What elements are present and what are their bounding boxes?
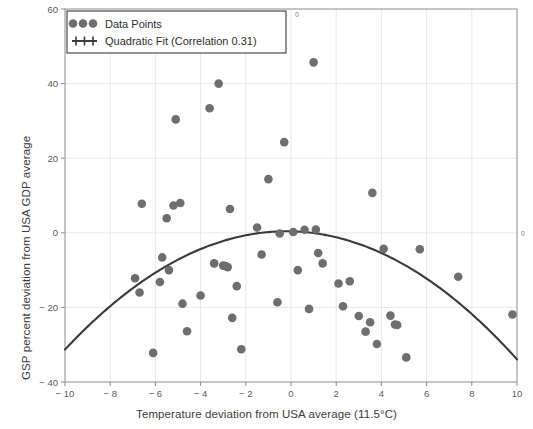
svg-text:40: 40 xyxy=(47,78,58,89)
svg-text:− 2: − 2 xyxy=(239,388,252,399)
svg-text:Data Points: Data Points xyxy=(105,18,162,30)
svg-text:0: 0 xyxy=(288,388,293,399)
scatter-plot: − 10− 8− 6− 4− 20246810− 40− 20020406000… xyxy=(0,0,533,429)
svg-text:− 4: − 4 xyxy=(194,388,207,399)
svg-text:0: 0 xyxy=(295,11,299,18)
svg-text:10: 10 xyxy=(512,388,523,399)
y-axis-label: GSP percent deviation from USA GDP avera… xyxy=(20,136,32,380)
svg-text:6: 6 xyxy=(424,388,429,399)
svg-text:0: 0 xyxy=(521,230,525,237)
svg-text:2: 2 xyxy=(334,388,339,399)
grid-lines xyxy=(65,9,517,382)
svg-text:8: 8 xyxy=(469,388,474,399)
svg-text:− 8: − 8 xyxy=(103,388,116,399)
x-axis-label: Temperature deviation from USA average (… xyxy=(0,408,533,420)
axis-ticks: − 10− 8− 6− 4− 20246810− 40− 20020406000 xyxy=(39,4,525,400)
chart-figure: − 10− 8− 6− 4− 20246810− 40− 20020406000… xyxy=(0,0,533,429)
chart-legend: Data PointsQuadratic Fit (Correlation 0.… xyxy=(67,11,286,53)
svg-text:− 6: − 6 xyxy=(149,388,162,399)
svg-text:4: 4 xyxy=(379,388,384,399)
svg-text:20: 20 xyxy=(47,153,58,164)
svg-text:− 10: − 10 xyxy=(56,388,75,399)
data-points-layer xyxy=(131,58,517,362)
svg-text:− 40: − 40 xyxy=(39,377,58,388)
svg-text:60: 60 xyxy=(47,4,58,15)
svg-text:Quadratic Fit (Correlation 0.3: Quadratic Fit (Correlation 0.31) xyxy=(105,35,257,47)
svg-text:0: 0 xyxy=(53,227,58,238)
svg-text:− 20: − 20 xyxy=(39,302,58,313)
